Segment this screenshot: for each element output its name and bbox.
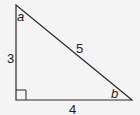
right-triangle-diagram: a b 3 5 4 — [0, 0, 140, 115]
angle-a-label: a — [17, 10, 24, 23]
angle-b-label: b — [111, 87, 118, 100]
side-vertical-label: 3 — [7, 52, 14, 65]
side-hypotenuse-label: 5 — [76, 42, 83, 55]
right-angle-marker — [16, 90, 26, 100]
side-horizontal-label: 4 — [69, 103, 76, 115]
